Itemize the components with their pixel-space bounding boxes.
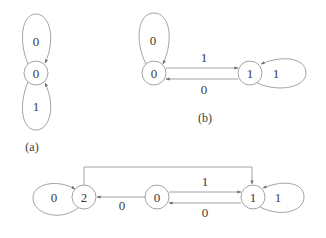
loop-arrow-b-node1 xyxy=(257,59,306,88)
loop-label-a-bottom: 1 xyxy=(33,99,40,114)
loop-label-c-node2: 0 xyxy=(51,190,58,205)
edge-label-c-0-to-1: 1 xyxy=(202,174,209,189)
edge-label-c-1-to-0: 0 xyxy=(202,205,209,220)
edge-label-b-0-to-1: 1 xyxy=(201,50,208,65)
loop-label-b-node1: 1 xyxy=(273,66,280,81)
diagram-b: 0 1 0 1 0 1 (b) xyxy=(139,13,306,125)
loop-label-a-top: 0 xyxy=(33,34,40,49)
loop-label-c-node1: 1 xyxy=(275,190,282,205)
state-label-c-2: 2 xyxy=(81,190,88,205)
edge-label-b-1-to-0: 0 xyxy=(201,82,208,97)
loop-arrow-c-node1 xyxy=(260,183,304,212)
edge-arrow-c-2-to-1-top xyxy=(84,167,252,185)
caption-a: (a) xyxy=(25,140,38,154)
state-label-c-0: 0 xyxy=(154,190,161,205)
caption-b: (b) xyxy=(198,111,212,125)
state-label-b-0: 0 xyxy=(151,66,158,81)
edge-label-c-0-to-2: 0 xyxy=(119,198,126,213)
diagram-a: 0 1 0 (a) xyxy=(22,14,50,154)
loop-label-b-node0: 0 xyxy=(150,33,157,48)
state-label-a-0: 0 xyxy=(33,66,40,81)
diagram-c: 0 0 1 0 1 2 0 1 xyxy=(33,167,304,220)
state-label-b-1: 1 xyxy=(247,66,254,81)
state-diagrams-figure: 0 1 0 (a) 0 1 0 1 0 1 (b) 0 0 1 0 1 xyxy=(0,0,326,238)
state-label-c-1: 1 xyxy=(250,190,257,205)
